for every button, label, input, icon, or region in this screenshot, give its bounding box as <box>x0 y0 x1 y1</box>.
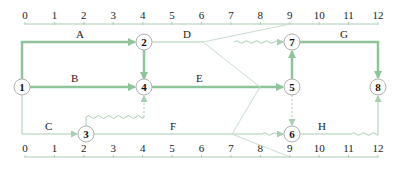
top-scale-tick-label: 1 <box>52 9 58 21</box>
activity-a: A <box>22 28 135 80</box>
activity-b: B <box>30 72 135 87</box>
bottom-scale-tick-label: 3 <box>111 142 117 154</box>
top-scale-tick-label: 10 <box>314 9 326 21</box>
bottom-scale-tick-label: 4 <box>140 142 146 154</box>
activity-d-label: D <box>183 28 191 40</box>
activity-e: E <box>152 72 283 87</box>
top-scale-tick-label: 8 <box>258 9 264 21</box>
top-time-scale: 0123456789101112 <box>22 9 383 25</box>
node-1: 1 <box>14 79 30 95</box>
node-label: 1 <box>19 81 25 93</box>
top-scale-tick-label: 6 <box>199 9 205 21</box>
activity-e-label: E <box>196 72 203 84</box>
activity-a-label: A <box>76 28 84 40</box>
bottom-scale-tick-label: 5 <box>169 142 175 154</box>
top-scale-tick-label: 5 <box>169 9 175 21</box>
bottom-scale-tick-label: 8 <box>258 142 264 154</box>
top-scale-tick-label: 11 <box>343 9 354 21</box>
top-scale-tick-label: 3 <box>111 9 117 21</box>
activity-h: H <box>300 96 378 135</box>
node-7: 7 <box>284 34 300 50</box>
activity-g-label: G <box>340 28 348 40</box>
top-scale-tick-label: 9 <box>287 9 293 21</box>
node-label: 5 <box>289 81 295 93</box>
bottom-scale-tick-label: 0 <box>22 142 28 154</box>
top-scale-tick-label: 7 <box>228 9 234 21</box>
activity-f-label: F <box>170 120 176 132</box>
activity-b-label: B <box>71 72 78 84</box>
node-label: 6 <box>289 128 295 140</box>
node-6: 6 <box>284 126 300 142</box>
node-label: 3 <box>83 128 89 140</box>
dummy-3-4 <box>86 96 144 126</box>
bottom-scale-tick-label: 11 <box>343 142 354 154</box>
network-diagram: 0123456789101112 0123456789101112 A B C … <box>0 0 405 169</box>
node-3: 3 <box>78 126 94 142</box>
bottom-scale-tick-label: 7 <box>228 142 234 154</box>
top-scale-tick-label: 0 <box>22 9 28 21</box>
bottom-scale-tick-label: 1 <box>52 142 58 154</box>
node-8: 8 <box>370 79 386 95</box>
node-label: 8 <box>375 81 381 93</box>
top-scale-tick-label: 4 <box>140 9 146 21</box>
bottom-scale-tick-label: 2 <box>81 142 87 154</box>
node-label: 7 <box>289 36 295 48</box>
bottom-scale-tick-label: 9 <box>287 142 293 154</box>
projection-lines <box>203 24 290 157</box>
activity-d: D <box>152 28 283 43</box>
top-scale-tick-label: 2 <box>81 9 87 21</box>
activity-g: G <box>300 28 378 78</box>
bottom-time-scale: 0123456789101112 <box>22 142 383 158</box>
node-5: 5 <box>284 79 300 95</box>
node-4: 4 <box>136 79 152 95</box>
activity-h-label: H <box>318 120 326 132</box>
node-label: 2 <box>141 36 147 48</box>
node-label: 4 <box>141 81 147 93</box>
activity-c-label: C <box>45 120 52 132</box>
bottom-scale-tick-label: 10 <box>314 142 326 154</box>
activity-c: C <box>22 95 77 134</box>
top-scale-tick-label: 12 <box>373 9 384 21</box>
node-2: 2 <box>136 34 152 50</box>
activity-f: F <box>94 120 283 135</box>
bottom-scale-tick-label: 6 <box>199 142 205 154</box>
bottom-scale-tick-label: 12 <box>373 142 384 154</box>
